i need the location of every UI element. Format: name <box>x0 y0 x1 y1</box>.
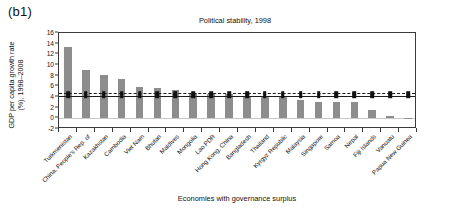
reference-line-marker <box>227 94 231 98</box>
x-tick-mark <box>58 128 59 132</box>
y-tick-label: 6 <box>50 82 54 89</box>
y-tick-label: 2 <box>50 103 54 110</box>
reference-line-marker <box>209 94 213 98</box>
y-axis: 1614121086420-2 <box>30 32 58 128</box>
reference-line-marker <box>406 94 410 98</box>
reference-line-marker <box>66 94 70 98</box>
reference-line-marker <box>245 94 249 98</box>
x-axis-category-labels: TurkmenistanChina, People's Rep. ofKazak… <box>58 132 416 194</box>
reference-line-marker <box>84 94 88 98</box>
y-axis-title-line2: (%), 1998–2008 <box>16 41 25 128</box>
reference-line-marker <box>156 94 160 98</box>
y-axis-title-line1: GDP per capita growth rate <box>7 41 16 128</box>
y-tick-label: 10 <box>47 61 54 68</box>
y-tick-label: 0 <box>50 114 54 121</box>
reference-line-marker <box>138 94 142 98</box>
y-tick-label: 4 <box>50 93 54 100</box>
y-tick-label: 16 <box>47 29 54 36</box>
y-tick-label: 14 <box>47 39 54 46</box>
reference-line-marker <box>299 94 303 98</box>
reference-line-marker <box>388 94 392 98</box>
reference-line-marker <box>191 94 195 98</box>
reference-line-marker <box>102 94 106 98</box>
chart-title: Political stability, 1998 <box>60 16 410 25</box>
reference-line-marker <box>174 94 178 98</box>
y-tick-label: 12 <box>47 50 54 57</box>
reference-line-solid <box>59 96 415 97</box>
reference-line-marker <box>317 94 321 98</box>
figure-panel-b1: (b1) Political stability, 1998 GDP per c… <box>0 0 450 215</box>
y-tick-label: -2 <box>48 125 54 132</box>
y-axis-title: GDP per capita growth rate (%), 1998–200… <box>4 32 28 137</box>
reference-line-marker <box>370 94 374 98</box>
y-tick-label: 8 <box>50 71 54 78</box>
x-axis-title: Economies with governance surplus <box>58 194 416 203</box>
reference-line-marker <box>281 94 285 98</box>
reference-line-marker <box>353 94 357 98</box>
reference-line-marker <box>335 94 339 98</box>
reference-line-dashed <box>59 93 415 94</box>
panel-label: (b1) <box>8 4 32 19</box>
